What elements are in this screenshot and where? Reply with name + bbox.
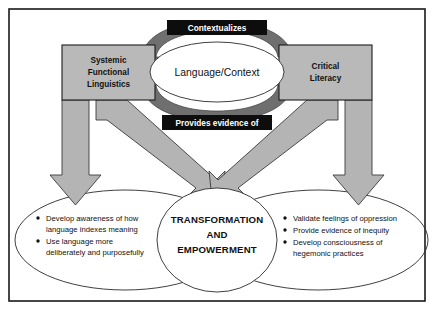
left-box-label-line1: Systemic	[91, 56, 127, 65]
arrow-left-down	[50, 100, 101, 205]
right-bullet-1-line1: Validate feelings of oppression	[293, 214, 397, 223]
left-bullet-2-line1: Use language more	[46, 237, 113, 246]
left-bullet-2-line2: deliberately and purposefully	[46, 248, 144, 257]
center-outcome-ellipse-fill	[157, 188, 277, 292]
top-label-text: Contextualizes	[188, 23, 247, 33]
left-bullet-1-line2: language indexes meaning	[46, 225, 138, 234]
right-box-label-line2: Literacy	[310, 74, 342, 83]
arrow-right-down	[333, 100, 384, 205]
outcome-label-line1: TRANSFORMATION	[171, 214, 264, 225]
right-bullet-marker-2	[283, 228, 286, 231]
right-bullet-3-line2: hegemonic practices	[293, 249, 364, 258]
left-box-label-line2: Functional	[88, 68, 129, 77]
right-bullet-2-line1: Provide evidence of inequity	[293, 226, 389, 235]
left-bullet-1-line1: Develop awareness of how	[46, 214, 139, 223]
language-context-label: Language/Context	[175, 67, 260, 78]
right-concept-box	[279, 45, 372, 100]
right-bullet-marker-3	[283, 240, 286, 243]
right-box-label-line1: Critical	[312, 62, 340, 71]
right-bullet-marker-1	[283, 216, 286, 219]
left-bullet-marker-1	[36, 216, 39, 219]
left-box-label-line3: Linguistics	[87, 80, 131, 89]
left-bullet-marker-2	[36, 239, 39, 242]
figure-root: Contextualizes Provides evidence of Lang…	[0, 0, 434, 310]
diagram-canvas: Contextualizes Provides evidence of Lang…	[0, 0, 434, 310]
outcome-label-line2: AND	[206, 229, 227, 240]
outcome-label-line3: EMPOWERMENT	[177, 244, 256, 255]
right-bullet-3-line1: Develop consciousness of	[293, 238, 383, 247]
bottom-label-text: Provides evidence of	[175, 118, 258, 128]
